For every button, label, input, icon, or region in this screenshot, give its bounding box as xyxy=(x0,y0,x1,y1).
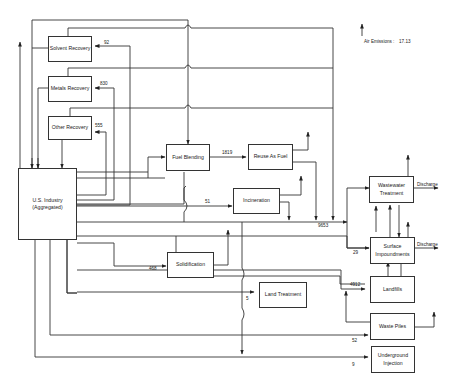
air-emissions-label: Air Emissions : xyxy=(364,39,394,44)
node-fuel-blending: Fuel Blending xyxy=(166,144,210,171)
flow-label-555: 555 xyxy=(95,123,103,128)
flow-label-92: 92 xyxy=(104,40,109,45)
flow-label-830: 830 xyxy=(100,81,108,86)
flow-label-29: 29 xyxy=(353,250,358,255)
node-us-industry: U.S. Industry (Aggregated) xyxy=(18,168,77,240)
flow-label-4912: 4912 xyxy=(350,282,360,287)
node-solidification: Solidification xyxy=(167,252,214,278)
flow-label-9653: 9653 xyxy=(318,223,328,228)
flow-label-9: 9 xyxy=(352,362,355,367)
flow-label-51: 51 xyxy=(205,199,210,204)
flow-label-468: 468 xyxy=(149,266,157,271)
discharge-label-surface: Discharge xyxy=(417,242,438,247)
node-incineration: Incineration xyxy=(233,188,280,214)
flow-label-5: 5 xyxy=(246,296,249,301)
node-underground-injection: Underground Injection xyxy=(371,346,415,373)
node-metals-recovery: Metals Recovery xyxy=(48,76,92,102)
air-emissions-value: 17.13 xyxy=(399,39,411,44)
flow-label-1819: 1819 xyxy=(222,150,232,155)
node-other-recovery: Other Recovery xyxy=(48,116,92,140)
node-waste-piles: Waste Piles xyxy=(370,313,415,340)
flow-label-52: 52 xyxy=(352,338,357,343)
node-surface-impoundments: Surface Impoundments xyxy=(370,237,415,264)
node-land-treatment: Land Treatment xyxy=(259,282,307,308)
node-reuse-as-fuel: Reuse As Fuel xyxy=(248,144,293,170)
node-solvent-recovery: Solvent Recovery xyxy=(48,36,92,62)
discharge-label-wastewater: Discharge xyxy=(417,182,438,187)
node-landfills: Landfills xyxy=(370,276,415,303)
node-wastewater-treatment: Wastewater Treatment xyxy=(369,176,414,203)
